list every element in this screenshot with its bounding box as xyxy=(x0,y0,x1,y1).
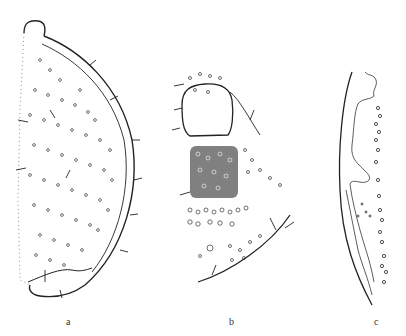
panel-label-b: b xyxy=(229,316,234,327)
panel-label-a: a xyxy=(66,316,70,327)
panel-b-drawing xyxy=(160,60,300,336)
panel-label-c: c xyxy=(374,316,378,327)
figure-panel-c: c xyxy=(290,20,406,336)
figure-panel-b: b xyxy=(160,60,300,336)
panel-c-drawing xyxy=(290,20,406,336)
